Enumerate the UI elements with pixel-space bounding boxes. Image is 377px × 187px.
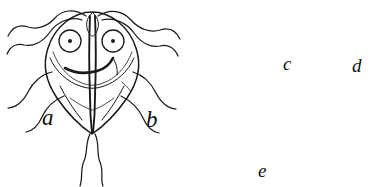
panel-label-a: a: [42, 106, 54, 129]
cell-interior-a: [50, 52, 136, 120]
flagellum-posterolateral-right: [133, 72, 176, 109]
flagellum-posterolateral-left: [8, 72, 52, 108]
figure-canvas: a b c d e: [0, 0, 377, 187]
nucleus-right-a: [102, 30, 124, 52]
giardia-illustration: [0, 0, 377, 187]
flagellar-base-loop: [87, 13, 99, 36]
median-body-tail-a: [113, 58, 117, 75]
panel-label-b: b: [146, 108, 158, 131]
panel-label-d: d: [352, 56, 362, 75]
flagellum-caudal-pair: [80, 134, 103, 186]
flagellum-anterior-right: [98, 11, 180, 56]
panel-a-trophozoite-ventral: [7, 11, 180, 186]
flagellum-anterior-left: [7, 11, 86, 54]
axoneme-axostyle-a: [89, 16, 96, 133]
panel-label-e: e: [258, 161, 266, 180]
panel-label-c: c: [283, 54, 291, 73]
nucleus-left-a: [59, 30, 81, 52]
